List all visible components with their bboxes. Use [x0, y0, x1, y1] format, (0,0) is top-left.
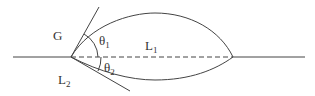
liquid2-label: L2 — [58, 73, 70, 86]
theta1-label: θ1 — [99, 34, 110, 47]
liquid1-label: L1 — [145, 39, 157, 52]
diagram-graphic — [0, 0, 315, 96]
theta2-label: θ2 — [104, 61, 115, 74]
lens-contact-angle-diagram: G θ1 L1 θ2 L2 — [0, 0, 315, 96]
theta2-angle-arc — [98, 57, 101, 71]
lower-lens-arc — [71, 57, 233, 80]
gas-label: G — [53, 29, 62, 42]
theta1-angle-arc — [84, 34, 98, 57]
